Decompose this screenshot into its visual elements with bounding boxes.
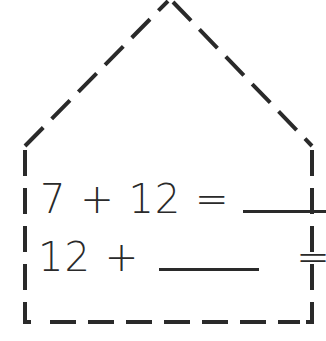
addend-1: 12	[38, 234, 91, 280]
addend-1: 7	[40, 176, 66, 222]
wall-left	[25, 150, 36, 322]
equation-2: 12 + = 19	[38, 234, 326, 277]
plus-sign: +	[80, 176, 115, 222]
equals-sign: =	[296, 234, 326, 280]
equals-sign: =	[195, 176, 230, 222]
house-outline	[0, 0, 326, 341]
addend-2: 12	[128, 176, 181, 222]
missing-addend-blank[interactable]	[159, 234, 259, 271]
equation-1: 7 + 12 =	[40, 176, 326, 219]
roof-left	[25, 1, 168, 146]
answer-blank[interactable]	[243, 176, 326, 213]
roof-right	[173, 2, 312, 146]
plus-sign: +	[105, 234, 140, 280]
